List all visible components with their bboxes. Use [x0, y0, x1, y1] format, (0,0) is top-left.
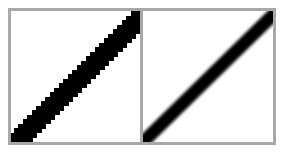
aliased-diagonal-line [11, 11, 140, 142]
aliased-line-panel [8, 8, 142, 145]
antialiased-diagonal-line [143, 11, 273, 142]
antialiased-line-panel [141, 8, 276, 145]
